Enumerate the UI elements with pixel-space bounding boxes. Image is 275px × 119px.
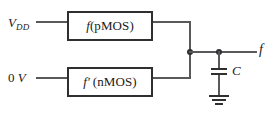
output-label: f	[259, 42, 263, 58]
capacitor-label: C	[232, 63, 241, 79]
wire-vdd-to-pmos	[36, 21, 67, 23]
nmos-network-text: (nMOS)	[93, 74, 137, 89]
wire-gnd-to-nmos	[36, 77, 67, 79]
ground-rail-label: 0 V	[8, 70, 26, 86]
supply-rail-symbol: V	[8, 15, 16, 30]
ground-rail-unit: V	[18, 70, 26, 85]
nmos-prime-mark: ′	[87, 74, 90, 89]
circuit-diagram: VDD f(pMOS) 0 V f′ (nMOS) f C	[0, 0, 275, 119]
pmos-block-label: f(pMOS)	[86, 18, 134, 34]
ground-symbol-bar-2	[212, 99, 226, 101]
wire-capacitor-top-lead	[218, 51, 220, 69]
ground-symbol-bar-1	[209, 95, 229, 97]
nmos-function-block: f′ (nMOS)	[67, 67, 153, 97]
pmos-function-block: f(pMOS)	[67, 11, 153, 41]
wire-output-line	[189, 51, 257, 53]
ground-symbol-bar-3	[215, 103, 223, 105]
wire-nmos-to-riser	[153, 77, 191, 79]
ground-rail-value: 0	[8, 70, 15, 85]
capacitor-top-plate	[211, 68, 227, 70]
nmos-block-label: f′ (nMOS)	[83, 74, 136, 90]
supply-rail-label: VDD	[8, 15, 29, 32]
pmos-network-text: (pMOS)	[90, 18, 134, 33]
wire-pmos-to-riser	[153, 21, 191, 23]
wire-capacitor-bottom-lead	[218, 75, 220, 95]
supply-rail-subscript: DD	[16, 22, 29, 32]
